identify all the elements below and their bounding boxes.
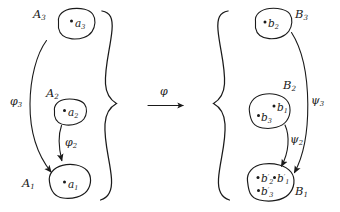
element-dot-a3 [70, 20, 73, 23]
set-label-A3: A3 [33, 9, 46, 21]
map-arrow-phi3 [30, 41, 51, 173]
element-dot-b1prime [273, 176, 276, 179]
map-label-psi3: ψ3 [311, 95, 324, 108]
element-label-a3: a3 [75, 18, 85, 30]
element-label-b3: b3 [261, 112, 272, 124]
element-dot-b2prime [257, 176, 260, 179]
brace-right [214, 11, 230, 200]
set-label-B2: B2 [283, 80, 296, 92]
map-label-phi2: φ2 [65, 137, 77, 150]
map-arrow-psi2 [282, 125, 289, 166]
diagram-canvas: A3 A2 A1 a3 a2 a1 φ3 φ2 φ B3 B2 B1 b2 b1… [0, 0, 340, 212]
map-arrow-psi3 [292, 33, 308, 173]
element-dot-b3prime [257, 189, 260, 192]
set-label-A2: A2 [46, 88, 59, 100]
map-label-phi3: φ3 [10, 96, 22, 109]
element-label-b3prime: b′3 [261, 186, 273, 198]
element-dot-a1 [63, 181, 66, 184]
element-label-b1prime: b′1 [277, 173, 289, 185]
set-label-B3: B3 [295, 9, 308, 21]
element-label-a1: a1 [68, 179, 78, 191]
element-dot-b2 [264, 21, 267, 24]
brace-left [101, 11, 117, 200]
set-label-B1: B1 [295, 186, 308, 198]
element-label-b2: b2 [268, 18, 279, 30]
element-dot-a2 [63, 109, 66, 112]
element-label-b2prime: b′2 [261, 173, 273, 185]
element-label-a2: a2 [68, 107, 78, 119]
element-label-b1: b1 [277, 102, 288, 114]
set-label-A1: A1 [22, 178, 35, 190]
map-label-phi: φ [160, 86, 168, 97]
element-dot-b1 [273, 105, 276, 108]
element-dot-b3 [257, 114, 260, 117]
map-arrow-phi2 [59, 126, 62, 161]
map-label-psi2: ψ2 [290, 134, 303, 147]
